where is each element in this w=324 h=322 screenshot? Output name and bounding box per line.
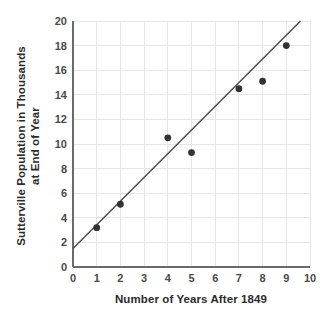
data-point-marker — [164, 134, 171, 141]
y-axis-title-line-2: at End of Year — [29, 107, 41, 185]
x-tick-label: 2 — [117, 272, 123, 284]
data-point-marker — [259, 78, 266, 85]
chart-canvas: 012345678910 02468101214161820 Number of… — [0, 0, 324, 322]
y-tick-label: 18 — [55, 40, 67, 52]
y-tick-label: 0 — [61, 261, 67, 273]
x-tick-label: 9 — [283, 272, 289, 284]
data-point-marker — [283, 42, 290, 49]
scatter-chart: 012345678910 02468101214161820 Number of… — [0, 0, 324, 322]
y-tick-label: 12 — [55, 113, 67, 125]
data-point-marker — [188, 149, 195, 156]
x-tick-label: 7 — [236, 272, 242, 284]
x-tick-label: 4 — [165, 272, 172, 284]
x-tick-label: 8 — [260, 272, 266, 284]
x-tick-label: 5 — [188, 272, 194, 284]
x-tick-label: 6 — [212, 272, 218, 284]
data-point-marker — [117, 201, 124, 208]
data-point-marker — [93, 224, 100, 231]
x-tick-label: 1 — [94, 272, 100, 284]
y-axis-title-line-1: Sutterville Population in Thousands — [15, 46, 27, 246]
y-tick-label: 10 — [55, 138, 67, 150]
y-tick-label: 2 — [61, 236, 67, 248]
y-tick-label: 6 — [61, 187, 67, 199]
data-point-marker — [236, 85, 243, 92]
x-axis-title: Number of Years After 1849 — [115, 293, 267, 305]
x-tick-label: 10 — [304, 272, 316, 284]
y-tick-label: 16 — [55, 64, 67, 76]
y-tick-label: 20 — [55, 15, 67, 27]
x-tick-label: 3 — [141, 272, 147, 284]
y-tick-label: 4 — [61, 212, 68, 224]
x-tick-label: 0 — [70, 272, 76, 284]
y-tick-label: 8 — [61, 163, 67, 175]
chart-background — [0, 0, 324, 322]
y-tick-label: 14 — [55, 89, 68, 101]
